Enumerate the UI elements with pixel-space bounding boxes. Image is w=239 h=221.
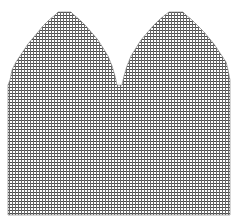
knitting-chart — [0, 0, 239, 221]
